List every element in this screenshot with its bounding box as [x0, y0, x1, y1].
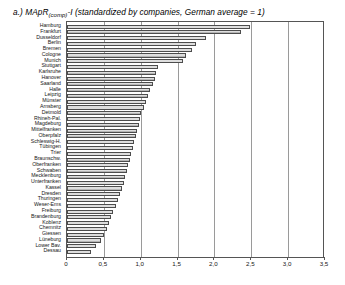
- y-axis-tick-label: Dessau: [43, 248, 61, 254]
- bar: [67, 210, 113, 214]
- bar: [67, 238, 101, 242]
- bar: [67, 88, 150, 92]
- x-axis-tick-label: 0,5: [99, 260, 108, 267]
- bar: [67, 105, 144, 109]
- x-axis-tick-label: 2,0: [209, 260, 218, 267]
- x-axis-labels: 00,51,01,52,02,53,03,5: [0, 260, 345, 274]
- bar: [67, 82, 153, 86]
- bar: [67, 152, 131, 156]
- x-axis-tick-label: 1,5: [172, 260, 181, 267]
- bar: [67, 221, 109, 225]
- bar: [67, 65, 158, 69]
- bar: [67, 158, 130, 162]
- bar: [67, 36, 206, 40]
- bar: [67, 117, 140, 121]
- plot-area: [66, 21, 324, 258]
- bar: [67, 123, 139, 127]
- bar: [67, 250, 91, 254]
- y-axis-labels: HamburgFrankfurtDusseldorfBerlinBremenCo…: [0, 21, 64, 258]
- bar: [67, 59, 183, 63]
- x-axis-tick-label: 3,5: [320, 260, 329, 267]
- bar: [67, 204, 116, 208]
- bar: [67, 186, 122, 190]
- bar: [67, 53, 186, 57]
- bar: [67, 215, 111, 219]
- figure-container: a.) MApR(comp)-I (standardized by compan…: [0, 0, 345, 285]
- bar: [67, 71, 156, 75]
- bar-row: [67, 249, 325, 255]
- bar: [67, 94, 148, 98]
- bar: [67, 181, 124, 185]
- x-axis-tick-label: 2,5: [246, 260, 255, 267]
- bar: [67, 30, 241, 34]
- bar: [67, 77, 155, 81]
- caption-prefix: a.) MApR: [13, 7, 48, 17]
- bar: [67, 140, 134, 144]
- bar: [67, 146, 133, 150]
- bar: [67, 129, 137, 133]
- bar: [67, 175, 125, 179]
- bar: [67, 48, 192, 52]
- bar: [67, 244, 96, 248]
- figure-caption: a.) MApR(comp)-I (standardized by compan…: [13, 7, 265, 18]
- bar: [67, 198, 118, 202]
- x-axis-tick-label: 0: [64, 260, 67, 267]
- bar: [67, 42, 196, 46]
- bar-series: [67, 22, 323, 257]
- bar: [67, 134, 136, 138]
- x-axis-tick-label: 1,0: [135, 260, 144, 267]
- bar: [67, 111, 141, 115]
- bar: [67, 192, 120, 196]
- bar: [67, 163, 128, 167]
- bar: [67, 227, 107, 231]
- bar: [67, 169, 127, 173]
- x-axis-tick-label: 3,0: [283, 260, 292, 267]
- caption-subscript: (comp): [48, 12, 67, 18]
- bar: [67, 25, 250, 29]
- caption-rest: -I (standardized by companies, German av…: [67, 7, 264, 17]
- bar: [67, 233, 104, 237]
- bar: [67, 100, 146, 104]
